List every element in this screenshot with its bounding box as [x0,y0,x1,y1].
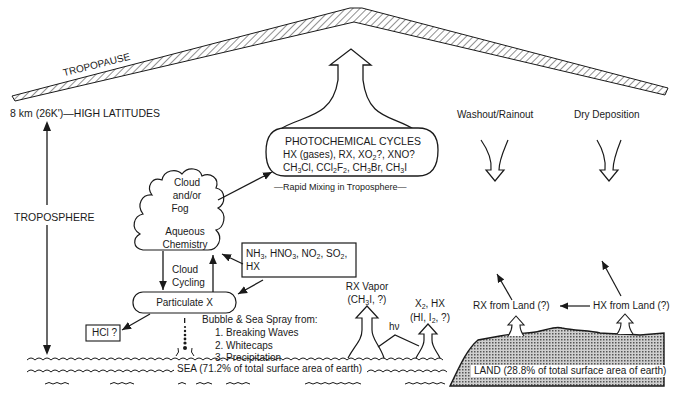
gases-to-cloud-arrow [222,254,243,264]
rx-vapor-label-1: RX Vapor [332,281,402,293]
x2-hx-label-1: X2, HX [400,298,460,310]
land-mass [450,327,664,386]
hx-land-up-thin-arrow [602,261,621,296]
cloud-to-photochem-arrow [218,172,272,200]
x2-hx-arrow-icon [416,324,440,358]
troposphere-height-arrow [43,121,51,355]
washout-label: Washout/Rainout [457,109,533,121]
hcl-label: HCl ? [92,327,117,339]
cloud-cycling-label-2: Cycling [172,277,205,289]
altitude-label: 8 km (26K')—HIGH LATITUDES [10,107,160,119]
rx-from-land-label: RX from Land (?) [473,300,550,312]
sea-spray-dots-icon [176,318,194,356]
x2-hx-label-2: (HI, I2, ?) [398,312,462,324]
sea-spray-title: Bubble & Sea Spray from: [202,314,318,326]
dry-deposition-arrow-icon [597,140,621,181]
gases-box-line2: HX [246,261,260,273]
gases-to-particulate-arrow [238,280,263,294]
sea-label: SEA (71.2% of total surface area of eart… [174,363,365,375]
rapid-mixing-caption: —Rapid Mixing in Troposphere— [274,181,407,193]
cloud-label-4: Aqueous [155,226,215,238]
hx-from-land-label: HX from Land (?) [593,300,670,312]
troposphere-label: TROPOSPHERE [14,211,95,223]
mixing-up-arrow-icon [279,49,415,130]
rx-land-up-thin-arrow [497,274,512,300]
rx-land-up-arrow-icon [508,316,524,336]
sea-spray-item-1: 1. Breaking Waves [215,327,299,339]
rx-vapor-label-2: (CH3I, ?) [332,294,402,306]
gases-box-line1: NH3, HNO3, NO2, SO2, [246,248,347,260]
photochemical-species-line1: HX (gases), RX, XO2?, XNO? [283,149,415,161]
hv-connector [378,335,419,347]
photochemical-species-line2: CH3Cl, CCl2F2, CH3Br, CH3I [283,162,407,174]
hx-land-up-arrow-icon [617,314,633,334]
rx-vapor-arrow-icon [348,306,384,358]
washout-arrow-icon [481,140,508,181]
cloud-label-5: Chemistry [155,239,215,251]
cloud-cycling-label-1: Cloud [172,264,198,276]
land-label: LAND (28.8% of total surface area of ear… [471,365,669,377]
dry-deposition-label: Dry Deposition [574,109,640,121]
photochemical-title: PHOTOCHEMICAL CYCLES [283,135,423,147]
particulate-to-hcl-arrow [122,314,150,330]
cloud-label-1: Cloud [162,177,212,189]
cloud-label-3: Fog [155,203,205,215]
sea-spray-item-2: 2. Whitecaps [215,340,273,352]
hv-label: hν [389,321,400,333]
particulate-x-label: Particulate X [133,297,236,309]
cloud-label-2: and/or [162,190,212,202]
